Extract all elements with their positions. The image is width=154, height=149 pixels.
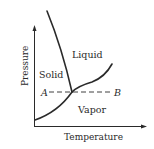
x-axis-label: Temperature [64, 132, 123, 142]
y-axis-arrow-icon [33, 25, 37, 31]
x-axis-arrow-icon [141, 125, 147, 129]
phase-diagram: Liquid Solid Vapor A B Temperature Press… [0, 0, 154, 149]
liquid-vapor-boundary [72, 64, 112, 92]
y-axis-label: Pressure [20, 46, 30, 86]
point-label-a: A [40, 87, 48, 98]
point-label-b: B [113, 87, 121, 98]
region-label-vapor: Vapor [77, 104, 106, 115]
region-label-liquid: Liquid [72, 49, 103, 60]
region-label-solid: Solid [39, 69, 63, 80]
